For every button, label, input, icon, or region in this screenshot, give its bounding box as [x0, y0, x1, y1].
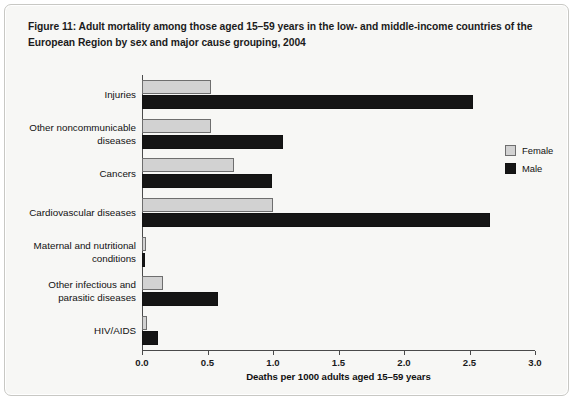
x-tick-label: 1.5 [319, 357, 359, 368]
legend-swatch-icon [505, 163, 516, 174]
bar-male [142, 292, 218, 306]
bar-female [142, 158, 234, 172]
bar-male [142, 253, 145, 267]
x-tick-label: 0.0 [122, 357, 162, 368]
bar-male [142, 331, 158, 345]
legend-item-female: Female [505, 143, 553, 158]
legend-item-male: Male [505, 161, 553, 176]
x-tick-label: 2.0 [384, 357, 424, 368]
x-tick-mark [535, 351, 536, 355]
category-label-line: conditions [4, 252, 136, 265]
figure-panel: Figure 11: Adult mortality among those a… [4, 4, 569, 396]
category-label-line: Injuries [4, 88, 136, 101]
category-label-line: Cardiovascular diseases [4, 206, 136, 219]
x-tick-mark [404, 351, 405, 355]
bar-male [142, 95, 473, 109]
bar-female [142, 316, 147, 330]
x-tick-label: 0.5 [188, 357, 228, 368]
bar-female [142, 119, 211, 133]
x-tick-label: 3.0 [515, 357, 555, 368]
legend-label: Male [522, 163, 542, 174]
bar-female [142, 276, 163, 290]
figure-caption: Figure 11: Adult mortality among those a… [28, 19, 540, 50]
category-axis-labels: InjuriesOther noncommunicablediseasesCan… [5, 75, 136, 350]
category-label-line: Maternal and nutritional [4, 239, 136, 252]
bar-female [142, 237, 146, 251]
x-tick-mark [470, 351, 471, 355]
bar-female [142, 198, 273, 212]
category-label-line: HIV/AIDS [4, 324, 136, 337]
x-tick-mark [273, 351, 274, 355]
x-tick-mark [339, 351, 340, 355]
x-tick-mark [208, 351, 209, 355]
category-label-line: Other noncommunicable [4, 121, 136, 134]
bar-male [142, 174, 272, 188]
category-label: Injuries [4, 88, 136, 101]
bar-male [142, 135, 283, 149]
x-axis-title: Deaths per 1000 adults aged 15–59 years [142, 371, 535, 382]
bar-male [142, 213, 490, 227]
x-tick-label: 1.0 [253, 357, 293, 368]
bar-female [142, 80, 211, 94]
category-label: Cancers [4, 167, 136, 180]
category-label: HIV/AIDS [4, 324, 136, 337]
category-label: Other noncommunicablediseases [4, 121, 136, 147]
category-label-line: Other infectious and [4, 278, 136, 291]
category-label-line: Cancers [4, 167, 136, 180]
plot-area: 0.00.51.01.52.02.53.0 [142, 75, 535, 350]
category-label: Cardiovascular diseases [4, 206, 136, 219]
category-label-line: parasitic diseases [4, 291, 136, 304]
category-label: Other infectious andparasitic diseases [4, 278, 136, 304]
legend-swatch-icon [505, 145, 516, 156]
x-tick-mark [142, 351, 143, 355]
category-label: Maternal and nutritionalconditions [4, 239, 136, 265]
category-label-line: diseases [4, 134, 136, 147]
chart-legend: FemaleMale [505, 143, 553, 179]
legend-label: Female [522, 145, 553, 156]
x-tick-label: 2.5 [450, 357, 490, 368]
